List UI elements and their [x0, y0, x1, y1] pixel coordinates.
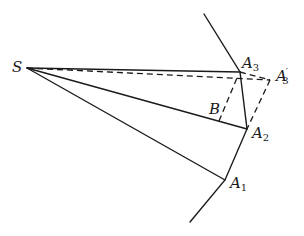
dashed-a3prime-a2: [247, 80, 270, 129]
ray-s-a1: [27, 68, 225, 180]
dashed-b-up: [219, 78, 237, 121]
label-a1: A1: [230, 176, 247, 193]
geometry-diagram: [0, 0, 304, 236]
ray-s-a2: [27, 68, 247, 129]
label-b: B: [209, 102, 220, 117]
label-a3: A3: [242, 56, 259, 73]
label-s: S: [12, 60, 22, 75]
dashed-a3-a3prime: [240, 72, 270, 80]
label-a3-prime: A′3: [276, 67, 289, 86]
label-a2: A2: [252, 126, 269, 143]
